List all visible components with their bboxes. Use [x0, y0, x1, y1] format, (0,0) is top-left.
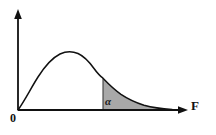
shaded-tail-region	[103, 78, 172, 110]
alpha-area-label: α	[105, 96, 111, 107]
y-axis-arrowhead	[14, 9, 22, 19]
chart-canvas	[0, 0, 216, 135]
x-axis-arrowhead	[178, 106, 188, 114]
f-distribution-figure: 0 F α	[0, 0, 216, 135]
x-axis-label: F	[191, 99, 199, 112]
origin-label: 0	[10, 112, 16, 124]
density-curve	[18, 52, 172, 110]
